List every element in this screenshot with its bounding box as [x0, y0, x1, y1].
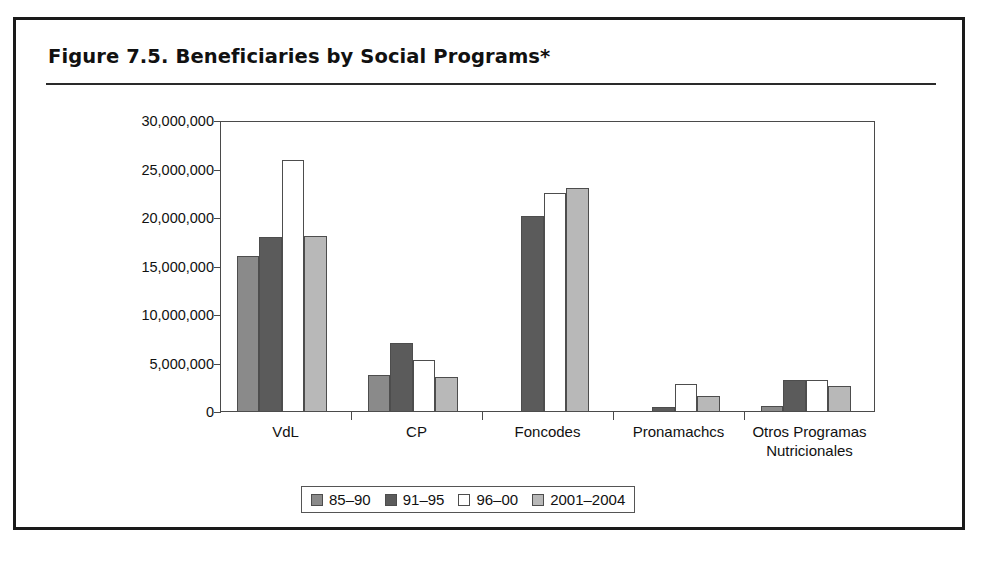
- bar: [521, 216, 544, 412]
- bar: [783, 380, 806, 412]
- y-axis-tick-label: 30,000,000: [141, 113, 214, 129]
- x-axis-category-label: Otros ProgramasNutricionales: [730, 422, 890, 460]
- bar: [544, 193, 567, 412]
- legend-item: 96–00: [458, 491, 518, 508]
- x-axis-tick: [613, 412, 614, 420]
- chart-legend: 85–9091–9596–002001–2004: [301, 486, 635, 513]
- y-axis-tick-mark: [214, 364, 221, 365]
- bar-group: [237, 121, 327, 412]
- legend-label: 2001–2004: [550, 491, 625, 508]
- x-axis-category-label: CP: [351, 422, 482, 441]
- legend-swatch: [385, 494, 397, 506]
- y-axis-tick-mark: [214, 315, 221, 316]
- y-axis-tick-label: 0: [206, 404, 214, 420]
- x-axis-category-label-line: Otros Programas: [730, 422, 890, 441]
- y-axis-tick-mark: [214, 267, 221, 268]
- y-axis-tick-label: 15,000,000: [141, 259, 214, 275]
- y-axis-tick-label: 5,000,000: [149, 356, 214, 372]
- bar-group: [761, 121, 851, 412]
- bar: [806, 380, 829, 412]
- x-axis-category-labels: VdLCPFoncodesPronamachcsOtros ProgramasN…: [220, 422, 900, 472]
- x-axis-category-label-line: Foncodes: [482, 422, 613, 441]
- bar: [259, 237, 282, 412]
- x-axis-ticks: [220, 412, 875, 421]
- bars-layer: [220, 121, 875, 412]
- x-axis-category-label: Foncodes: [482, 422, 613, 441]
- x-axis-category-label-line: Nutricionales: [730, 441, 890, 460]
- y-axis-tick-label: 20,000,000: [141, 210, 214, 226]
- bar: [282, 160, 305, 412]
- y-axis-tick-mark: [214, 412, 221, 413]
- bar: [304, 236, 327, 412]
- bar: [828, 386, 851, 412]
- x-axis-category-label: VdL: [220, 422, 351, 441]
- y-axis-tick-label: 25,000,000: [141, 162, 214, 178]
- legend-swatch: [532, 494, 544, 506]
- bar: [697, 396, 720, 412]
- legend-label: 91–95: [403, 491, 445, 508]
- x-axis-tick: [482, 412, 483, 420]
- x-axis-tick: [744, 412, 745, 420]
- bar-group: [368, 121, 458, 412]
- figure-frame: Figure 7.5. Beneficiaries by Social Prog…: [13, 17, 965, 530]
- bar-chart: 05,000,00010,000,00015,000,00020,000,000…: [16, 20, 968, 533]
- legend-item: 91–95: [385, 491, 445, 508]
- bar: [675, 384, 698, 412]
- bar: [435, 377, 458, 412]
- bar: [237, 256, 260, 412]
- bar-group: [630, 121, 720, 412]
- y-axis-tick-mark: [214, 170, 221, 171]
- legend-label: 96–00: [476, 491, 518, 508]
- x-axis-category-label-line: VdL: [220, 422, 351, 441]
- legend-swatch: [458, 494, 470, 506]
- bar: [566, 188, 589, 412]
- legend-item: 2001–2004: [532, 491, 625, 508]
- legend-swatch: [311, 494, 323, 506]
- x-axis-tick: [351, 412, 352, 420]
- legend-item: 85–90: [311, 491, 371, 508]
- y-axis-tick-labels: 05,000,00010,000,00015,000,00020,000,000…: [106, 121, 214, 412]
- x-axis-category-label-line: CP: [351, 422, 482, 441]
- bar: [368, 375, 391, 412]
- y-axis-tick-label: 10,000,000: [141, 307, 214, 323]
- legend-label: 85–90: [329, 491, 371, 508]
- bar: [390, 343, 413, 412]
- bar-group: [499, 121, 589, 412]
- x-axis-category-label: Pronamachcs: [613, 422, 744, 441]
- bar: [413, 360, 436, 412]
- y-axis-tick-mark: [214, 121, 221, 122]
- y-axis-tick-mark: [214, 218, 221, 219]
- x-axis-category-label-line: Pronamachcs: [613, 422, 744, 441]
